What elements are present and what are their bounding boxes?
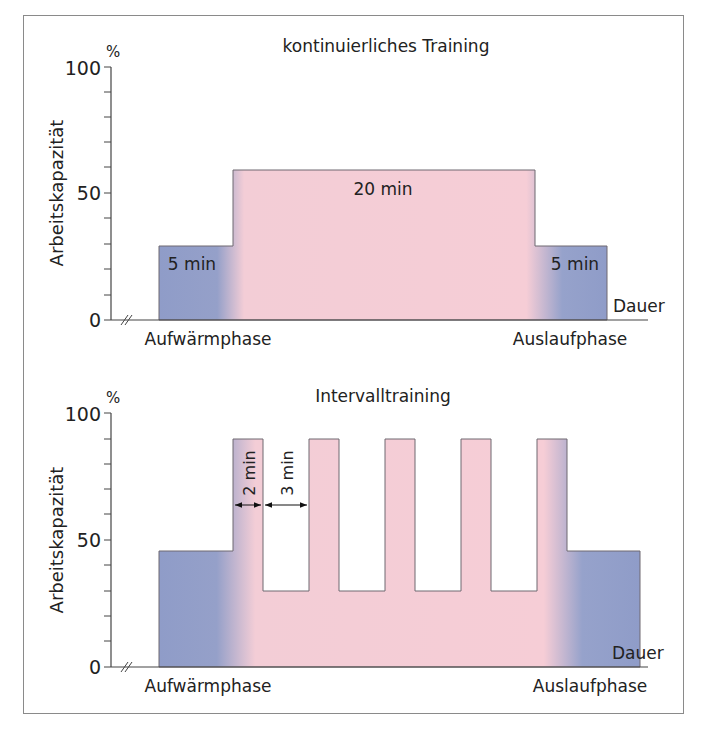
x-axis-label: Dauer	[612, 643, 664, 663]
x-axis-label: Dauer	[613, 296, 665, 316]
y-tick-50: 50	[77, 182, 101, 204]
chart-continuous-training: % 100 50 0 Arbeitskapazität kontinuierli…	[46, 36, 665, 349]
high-duration-label: 2 min	[240, 450, 259, 495]
y-tick-50: 50	[77, 529, 101, 551]
phase-label-warmup: Aufwärmphase	[145, 676, 272, 696]
main-duration-label: 20 min	[353, 179, 412, 199]
chart-interval-training: % 100 50 0 Arbeitskapazität Intervalltra…	[46, 386, 664, 696]
cooldown-duration-label: 5 min	[551, 254, 599, 274]
low-duration-label: 3 min	[278, 450, 297, 495]
y-tick-100: 100	[65, 403, 101, 425]
warmup-duration-label: 5 min	[168, 254, 216, 274]
y-tick-0: 0	[89, 656, 101, 678]
y-unit-label: %	[106, 389, 120, 407]
phase-label-cooldown: Auslaufphase	[533, 676, 647, 696]
y-ticks	[104, 67, 111, 320]
y-tick-100: 100	[65, 57, 101, 79]
y-axis-label: Arbeitskapazität	[46, 120, 67, 267]
phase-label-cooldown: Auslaufphase	[513, 329, 627, 349]
y-unit-label: %	[106, 43, 120, 61]
chart-title: Intervalltraining	[315, 386, 451, 406]
y-axis-label: Arbeitskapazität	[46, 467, 67, 614]
interval-profile-area	[159, 439, 640, 667]
chart-title: kontinuierliches Training	[283, 36, 490, 56]
y-ticks	[104, 413, 111, 667]
y-tick-0: 0	[89, 309, 101, 331]
main-figure: % 100 50 0 Arbeitskapazität kontinuierli…	[0, 0, 709, 735]
phase-label-warmup: Aufwärmphase	[145, 329, 272, 349]
